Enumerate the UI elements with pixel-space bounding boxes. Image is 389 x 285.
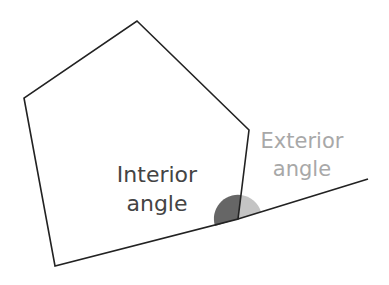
exterior-label-line2: angle <box>273 157 331 181</box>
pentagon-outline <box>24 21 249 266</box>
extension-line <box>238 179 368 219</box>
diagram-canvas: Interior angle Exterior angle <box>0 0 389 285</box>
interior-label-line2: angle <box>126 191 187 216</box>
interior-label-line1: Interior <box>117 162 198 187</box>
exterior-label-line1: Exterior <box>261 129 344 153</box>
